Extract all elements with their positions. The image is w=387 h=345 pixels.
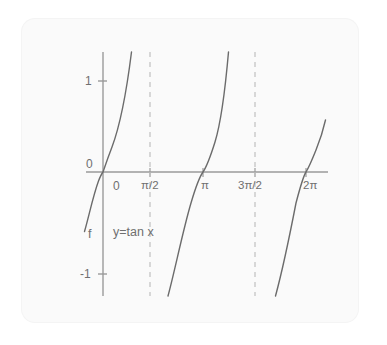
x-tick-label-0: 0 [113,180,120,192]
y-tick-label-1: 1 [85,75,92,87]
x-tick-label-pi: π [201,180,209,192]
tan-curve-branch-3 [276,120,326,296]
tan-curve-branch-2 [168,52,229,296]
tangent-function-plot [0,0,387,345]
y-tick-label-0: 0 [86,158,93,170]
x-tick-label-two-pi: 2π [303,180,317,192]
figure-container: 1 0 -1 0 π/2 π 3π/2 2π f y=tan x [0,0,387,345]
x-tick-label-three-half-pi: 3π/2 [238,180,262,192]
y-tick-label-minus-1: -1 [80,268,91,280]
equation-annotation: y=tan x [113,226,154,239]
x-tick-label-half-pi: π/2 [141,180,159,192]
y-axis-name-label: f [88,228,91,241]
